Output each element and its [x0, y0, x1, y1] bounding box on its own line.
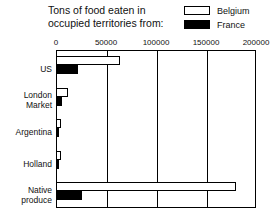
bar-france: [56, 191, 82, 200]
bar-france: [56, 160, 59, 169]
x-tick-label-1: 50000: [95, 38, 117, 47]
bar-belgium: [56, 119, 61, 128]
legend-item-belgium: Belgium: [184, 4, 268, 17]
legend-label-belgium: Belgium: [217, 6, 250, 16]
legend-swatch-france: [184, 20, 210, 29]
bar-group: [56, 82, 256, 114]
legend-label-france: France: [217, 20, 245, 30]
category-label: Native produce: [0, 185, 52, 205]
chart-title: Tons of food eaten in occupied territori…: [48, 4, 198, 30]
category-label: US: [0, 64, 52, 74]
x-axis-tick-labels: 050000100000150000200000: [0, 38, 272, 50]
category-label: Holland: [0, 159, 52, 169]
bar-france: [56, 65, 78, 74]
legend-swatch-belgium: [184, 6, 210, 15]
chart-legend: Belgium France: [184, 4, 268, 32]
bar-belgium: [56, 56, 120, 65]
category-label: Argentina: [0, 127, 52, 137]
bar-belgium: [56, 182, 236, 191]
bar-group: [56, 145, 256, 177]
category-label: London Market: [0, 90, 52, 110]
x-tick-label-4: 200000: [243, 38, 270, 47]
bars-layer: [56, 50, 256, 208]
x-tick-label-3: 150000: [193, 38, 220, 47]
bar-france: [56, 128, 59, 137]
bar-group: [56, 113, 256, 145]
bar-group: [56, 176, 256, 208]
bar-belgium: [56, 88, 68, 97]
bar-group: [56, 50, 256, 82]
bar-france: [56, 97, 62, 106]
bar-belgium: [56, 151, 61, 160]
bar-chart: Tons of food eaten in occupied territori…: [0, 0, 272, 221]
y-axis-category-labels: USLondon MarketArgentinaHollandNative pr…: [0, 50, 52, 208]
legend-item-france: France: [184, 18, 268, 31]
x-tick-label-0: 0: [54, 38, 58, 47]
x-tick-label-2: 100000: [143, 38, 170, 47]
